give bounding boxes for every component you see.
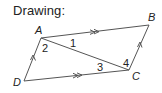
vertex-label-d: D xyxy=(13,76,21,88)
vertex-label-b: B xyxy=(148,11,155,23)
segment-ab xyxy=(41,25,149,38)
angle-label-1: 1 xyxy=(70,37,76,49)
angle-label-3: 3 xyxy=(97,61,103,73)
vertex-label-c: C xyxy=(132,70,140,82)
segment-cd xyxy=(24,70,129,81)
segment-da xyxy=(24,38,41,81)
segment-bc xyxy=(129,25,149,70)
diagonal-ac xyxy=(41,38,129,70)
angle-labels: 1 2 3 4 xyxy=(42,37,129,73)
parallelogram-diagram: A B C D 1 2 3 4 xyxy=(0,0,162,93)
angle-label-2: 2 xyxy=(42,42,48,54)
vertex-labels: A B C D xyxy=(13,11,155,88)
vertex-label-a: A xyxy=(34,24,42,36)
angle-label-4: 4 xyxy=(123,57,129,69)
